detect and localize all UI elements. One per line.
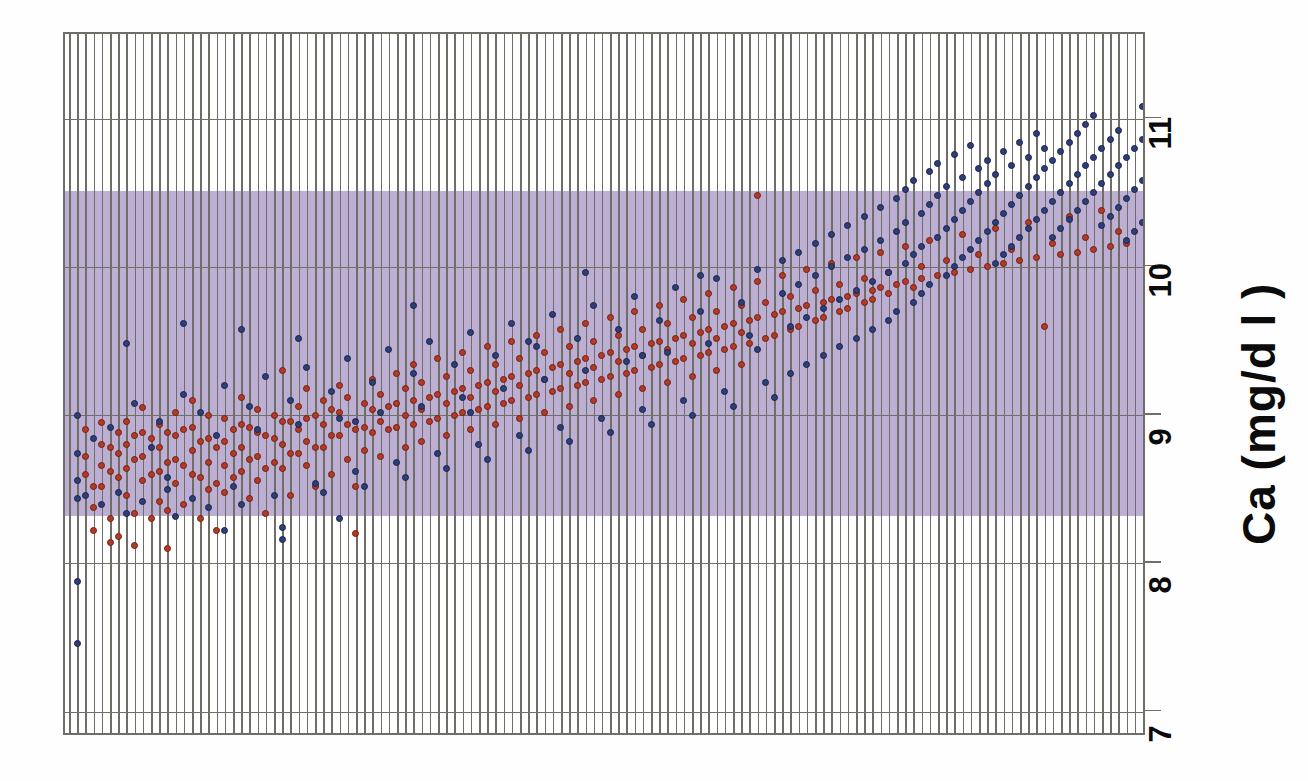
category-gridline: [135, 34, 137, 733]
data-point: [943, 272, 950, 279]
data-point: [820, 314, 827, 321]
data-point: [557, 424, 564, 431]
data-point: [566, 370, 573, 377]
data-point: [74, 578, 81, 585]
data-point: [984, 157, 991, 164]
data-point: [1131, 228, 1138, 235]
category-gridline: [1036, 34, 1038, 733]
data-point: [287, 418, 294, 425]
data-point: [1139, 103, 1145, 110]
data-point: [164, 507, 171, 514]
data-point: [1049, 234, 1056, 241]
category-gridline: [504, 34, 506, 733]
data-point: [992, 171, 999, 178]
category-gridline: [446, 34, 448, 733]
data-point: [730, 284, 737, 291]
category-gridline: [774, 34, 776, 733]
data-point: [320, 489, 327, 496]
data-point: [869, 296, 876, 303]
data-point: [131, 400, 138, 407]
category-gridline: [610, 34, 612, 733]
category-gridline: [430, 34, 432, 733]
category-gridline: [495, 34, 497, 733]
category-gridline: [241, 34, 243, 733]
data-point: [238, 421, 245, 428]
data-point: [197, 515, 204, 522]
data-point: [549, 311, 556, 318]
data-point: [1041, 165, 1048, 172]
data-point: [410, 421, 417, 428]
data-point: [410, 370, 417, 377]
category-gridline: [1086, 34, 1088, 733]
data-point: [959, 231, 966, 238]
data-point: [303, 415, 310, 422]
data-point: [943, 183, 950, 190]
data-point: [631, 308, 638, 315]
data-point: [484, 456, 491, 463]
data-point: [795, 305, 802, 312]
data-point: [574, 382, 581, 389]
data-point: [123, 510, 130, 517]
data-point: [615, 326, 622, 333]
category-gridline: [315, 34, 317, 733]
data-point: [607, 373, 614, 380]
category-gridline: [438, 34, 440, 733]
data-point: [730, 343, 737, 350]
category-gridline: [717, 34, 719, 733]
category-gridline: [290, 34, 292, 733]
category-gridline: [823, 34, 825, 733]
category-gridline: [471, 34, 473, 733]
data-point: [344, 421, 351, 428]
category-gridline: [676, 34, 678, 733]
data-point: [279, 524, 286, 531]
data-point: [410, 302, 417, 309]
data-point: [500, 400, 507, 407]
data-point: [426, 338, 433, 345]
data-point: [74, 450, 81, 457]
category-gridline: [1028, 34, 1030, 733]
axis-tick-label: 7: [1145, 725, 1176, 742]
category-gridline: [799, 34, 801, 733]
axis-tick-label: 9: [1145, 428, 1176, 445]
data-point: [312, 444, 319, 451]
data-point: [582, 320, 589, 327]
data-point: [271, 459, 278, 466]
data-point: [279, 441, 286, 448]
data-point: [1107, 136, 1114, 143]
data-point: [934, 160, 941, 167]
category-gridline: [512, 34, 514, 733]
data-point: [1025, 183, 1032, 190]
data-point: [656, 302, 663, 309]
data-point: [123, 418, 130, 425]
category-gridline: [1094, 34, 1096, 733]
category-gridline: [1004, 34, 1006, 733]
data-point: [984, 263, 991, 270]
data-point: [771, 311, 778, 318]
data-point: [352, 530, 359, 537]
data-point: [861, 213, 868, 220]
data-point: [377, 418, 384, 425]
data-point: [984, 228, 991, 235]
data-point: [730, 320, 737, 327]
data-point: [172, 513, 179, 520]
category-gridline: [635, 34, 637, 733]
data-point: [107, 515, 114, 522]
data-point: [705, 326, 712, 333]
data-point: [853, 335, 860, 342]
data-point: [926, 168, 933, 175]
data-point: [230, 483, 237, 490]
data-point: [812, 317, 819, 324]
category-gridline: [217, 34, 219, 733]
data-point: [320, 444, 327, 451]
data-point: [656, 338, 663, 345]
data-point: [361, 424, 368, 431]
data-point: [566, 403, 573, 410]
data-point: [148, 471, 155, 478]
data-point: [295, 403, 302, 410]
category-gridline: [692, 34, 694, 733]
axis-tick-label: 8: [1145, 577, 1176, 594]
data-point: [754, 314, 761, 321]
data-point: [279, 367, 286, 374]
data-point: [812, 287, 819, 294]
data-point: [779, 290, 786, 297]
